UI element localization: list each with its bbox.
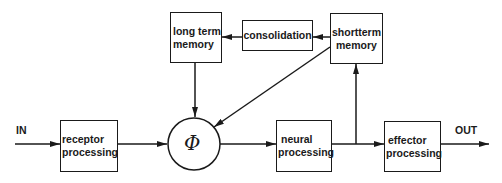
effector-processing-label-2: processing <box>386 147 440 160</box>
shortterm-memory-box: shortterm memory <box>330 13 383 64</box>
long-term-memory-label-1: long term <box>173 25 221 38</box>
effector-processing-box: effector processing <box>384 121 441 172</box>
neural-processing-label-1: neural <box>278 133 331 146</box>
long-term-memory-label-2: memory <box>173 38 221 51</box>
shortterm-memory-label-2: memory <box>332 39 382 52</box>
neural-processing-box: neural processing <box>276 120 332 172</box>
effector-processing-label-1: effector <box>386 134 440 147</box>
receptor-processing-label-2: processing <box>62 146 117 159</box>
input-label: IN <box>16 124 27 136</box>
consolidation-box: consolidation <box>242 20 313 51</box>
consolidation-label: consolidation <box>243 29 311 42</box>
neural-processing-label-2: processing <box>278 146 331 159</box>
phi-operator-label: Φ <box>184 131 200 155</box>
long-term-memory-box: long term memory <box>170 12 222 63</box>
edge-shortterm-phi <box>214 47 330 127</box>
output-label: OUT <box>455 124 477 136</box>
receptor-processing-label-1: receptor <box>62 133 117 146</box>
receptor-processing-box: receptor processing <box>60 120 118 172</box>
shortterm-memory-label-1: shortterm <box>332 26 382 39</box>
